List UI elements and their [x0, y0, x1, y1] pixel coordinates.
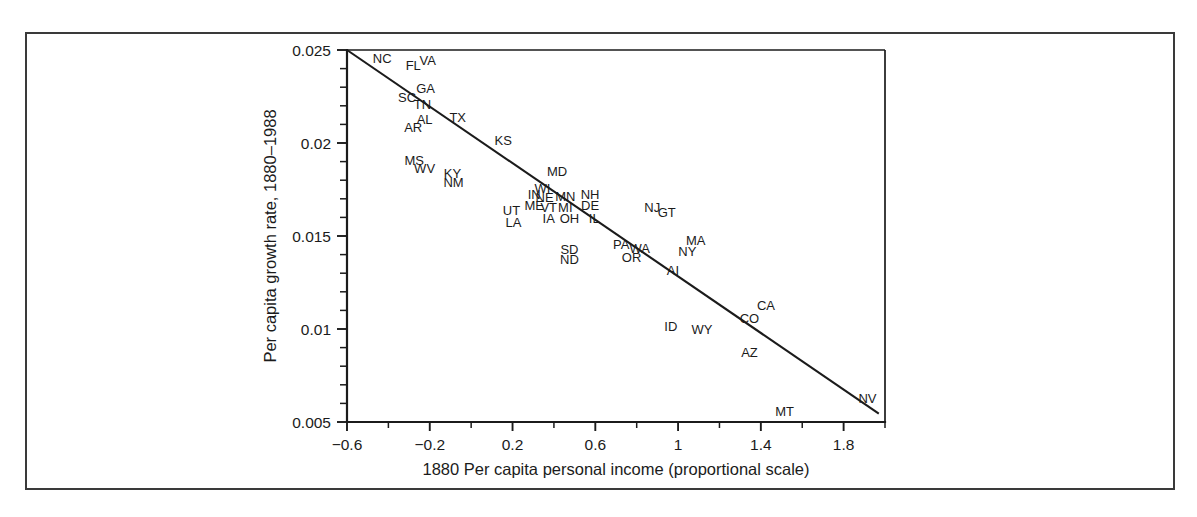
data-point-label: MD — [547, 164, 567, 179]
x-axis-tick-labels: −0.6−0.20.20.611.41.8 — [332, 436, 855, 453]
data-point-label: VA — [420, 53, 437, 68]
x-tick-label: 1 — [674, 436, 683, 453]
x-axis-ticks — [347, 422, 885, 431]
data-point-label: AZ — [741, 345, 758, 360]
y-axis-tick-labels: 0.0050.010.0150.020.025 — [292, 42, 331, 431]
data-point-labels: NCFLVASCGATNALARTXKSMSWVKYNMMDINWINEMNNH… — [373, 51, 877, 419]
data-point-label: NV — [858, 391, 876, 406]
y-tick-label: 0.015 — [292, 228, 331, 245]
data-point-label: WV — [414, 161, 435, 176]
data-point-label: KS — [495, 133, 513, 148]
data-point-label: GA — [416, 81, 435, 96]
y-axis-title: Per capita growth rate, 1880–1988 — [261, 109, 279, 362]
data-point-label: LA — [506, 215, 522, 230]
data-point-label: NY — [678, 244, 696, 259]
y-tick-label: 0.025 — [292, 42, 331, 59]
data-point-label: AI — [667, 263, 679, 278]
data-point-label: OH — [560, 211, 580, 226]
y-tick-label: 0.005 — [292, 414, 331, 431]
data-point-label: ND — [560, 252, 579, 267]
data-point-label: MT — [775, 404, 794, 419]
y-tick-label: 0.02 — [301, 135, 331, 152]
data-point-label: CA — [757, 298, 775, 313]
figure-root: −0.6−0.20.20.611.41.8 0.0050.010.0150.02… — [0, 0, 1197, 517]
data-point-label: NM — [443, 175, 463, 190]
x-tick-label: 1.8 — [833, 436, 855, 453]
x-tick-label: −0.6 — [332, 436, 363, 453]
data-point-label: GT — [658, 205, 676, 220]
x-tick-label: 1.4 — [750, 436, 772, 453]
data-point-label: TN — [414, 97, 431, 112]
data-point-label: WY — [691, 322, 712, 337]
y-tick-label: 0.01 — [301, 321, 331, 338]
data-point-label: ID — [664, 319, 677, 334]
data-point-label: NC — [373, 51, 392, 66]
data-point-label: OR — [622, 250, 642, 265]
x-tick-label: 0.2 — [502, 436, 524, 453]
scatter-chart: −0.6−0.20.20.611.41.8 0.0050.010.0150.02… — [0, 0, 1197, 517]
x-tick-label: 0.6 — [585, 436, 607, 453]
data-point-label: AR — [404, 120, 422, 135]
data-point-label: IL — [589, 211, 600, 226]
x-tick-label: −0.2 — [414, 436, 445, 453]
data-point-label: CO — [740, 311, 760, 326]
plot-canvas: −0.6−0.20.20.611.41.8 0.0050.010.0150.02… — [0, 0, 1197, 517]
data-point-label: IA — [543, 211, 556, 226]
y-axis-ticks — [337, 50, 347, 422]
data-point-label: TX — [449, 110, 466, 125]
x-axis-title: 1880 Per capita personal income (proport… — [422, 460, 809, 478]
